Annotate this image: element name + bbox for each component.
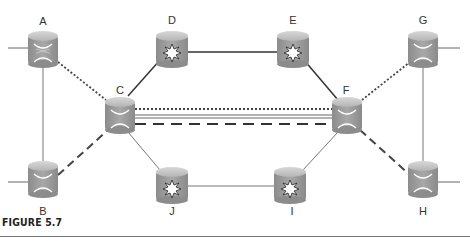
- node-label-g: G: [419, 14, 428, 26]
- link-c-d: [128, 60, 160, 96]
- router-c[interactable]: [105, 97, 135, 134]
- node-label-d: D: [168, 14, 176, 26]
- node-label-f: F: [343, 84, 350, 96]
- router-a[interactable]: [28, 31, 58, 68]
- link-b-c: [58, 130, 108, 175]
- router-d[interactable]: [156, 31, 188, 68]
- node-label-e: E: [289, 14, 296, 26]
- router-h[interactable]: [408, 161, 438, 198]
- node-label-j: J: [169, 205, 175, 217]
- caption-rule: [0, 236, 470, 237]
- link-a-c: [58, 62, 106, 100]
- node-label-h: H: [419, 205, 427, 217]
- router-g[interactable]: [408, 31, 438, 68]
- node-label-c: C: [116, 84, 124, 96]
- network-diagram: [0, 0, 470, 245]
- link-c-j: [128, 132, 160, 170]
- node-label-a: A: [39, 15, 46, 27]
- link-e-f: [304, 60, 338, 100]
- router-f[interactable]: [332, 97, 362, 134]
- router-j[interactable]: [156, 167, 188, 204]
- links: [43, 52, 423, 186]
- link-f-h: [360, 130, 410, 175]
- router-b[interactable]: [28, 161, 58, 198]
- link-i-f: [303, 132, 338, 170]
- node-label-i: I: [290, 205, 293, 217]
- link-f-g: [362, 62, 410, 100]
- router-i[interactable]: [274, 167, 306, 204]
- figure-caption: FIGURE 5.7: [2, 216, 62, 229]
- router-e[interactable]: [277, 31, 309, 68]
